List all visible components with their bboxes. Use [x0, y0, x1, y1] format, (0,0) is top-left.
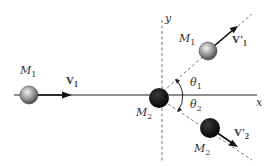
m2-final-label: M2	[194, 143, 210, 154]
collision-diagram: M1 V1 y x M2 M1 V'1 M2 V'2 θ1 θ2	[0, 0, 271, 166]
m1-final-label: M1	[179, 33, 195, 44]
v2-prime-sub: 2	[245, 132, 249, 141]
m1-initial-ball	[20, 86, 38, 104]
theta1-letter: θ	[190, 76, 197, 89]
m1-initial-letter: M	[20, 64, 31, 77]
m2-initial-ball	[149, 88, 169, 108]
theta2-letter: θ	[190, 98, 197, 111]
m1-final-letter: M	[179, 32, 190, 45]
theta2-sub: 2	[197, 104, 202, 113]
v2-prime-letter: V'	[234, 126, 245, 138]
m2-initial-letter: M	[136, 106, 147, 119]
v2-prime-label: V'2	[234, 127, 249, 138]
m1-final-ball	[199, 42, 217, 60]
m1-initial-label: M1	[20, 65, 36, 76]
m2-final-ball	[200, 118, 220, 138]
v1-label: V1	[66, 75, 78, 86]
v1-letter: V	[66, 74, 74, 86]
x-axis-label: x	[256, 97, 262, 108]
m1-initial-sub: 1	[31, 70, 36, 79]
m2-final-letter: M	[194, 142, 205, 155]
theta2-label: θ2	[190, 99, 202, 110]
m2-initial-sub: 2	[147, 112, 152, 121]
v1-sub: 1	[74, 80, 78, 89]
theta1-label: θ1	[190, 77, 202, 88]
v1-prime-letter: V'	[232, 33, 243, 45]
y-axis-label: y	[165, 13, 171, 24]
v1-arrowhead	[62, 92, 72, 99]
theta1-sub: 1	[197, 82, 202, 91]
diagram-graphics	[0, 0, 271, 166]
m2-final-sub: 2	[205, 148, 210, 157]
m2-initial-label: M2	[136, 107, 152, 118]
v1-prime-shaft	[214, 29, 234, 46]
v1-prime-label: V'1	[232, 34, 247, 45]
v1-prime-sub: 1	[243, 39, 247, 48]
m1-final-sub: 1	[190, 38, 195, 47]
